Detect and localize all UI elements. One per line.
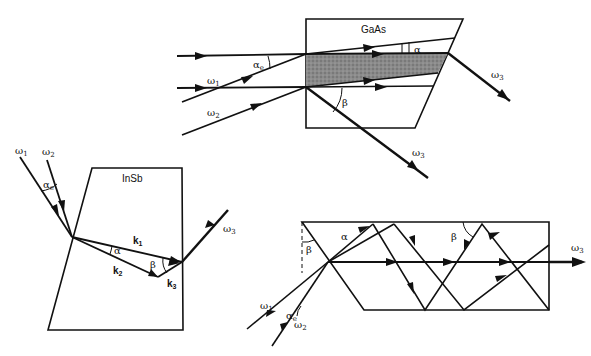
insb-omega3-label: ω3 [223, 224, 236, 236]
waveguide-omega2-label: ω2 [294, 320, 307, 332]
k1-label: k1 [133, 236, 142, 247]
insb-material-label: InSb [122, 174, 143, 184]
k2-label: k2 [113, 266, 122, 277]
insb-omega1-label: ω1 [15, 146, 28, 158]
insb-beta-label: β [150, 260, 156, 270]
figure: GaAs αe α ω1 ω2 β ω3 ω3 InSb ω1 ω2 αe α … [0, 0, 591, 356]
gaas-external-angle-label: αe [253, 60, 264, 72]
gaas-interaction-region [306, 53, 448, 87]
waveguide-facet-beta-label: β [306, 245, 312, 255]
gaas-material-label: GaAs [361, 25, 386, 35]
waveguide-omega3-label: ω3 [571, 243, 584, 255]
insb-alpha-label: α [114, 246, 121, 256]
waveguide-omega1-label: ω1 [260, 301, 273, 313]
insb-omega2-label: ω2 [42, 147, 55, 159]
gaas-omega3-bottom-label: ω3 [412, 148, 425, 160]
insb-external-angle-label: αe [43, 180, 54, 192]
waveguide-reflection-beta-label: β [451, 232, 457, 242]
gaas-internal-angle-label: α [414, 45, 421, 55]
gaas-omega3-top-label: ω3 [491, 70, 504, 82]
gaas-beta-label: β [342, 98, 348, 108]
gaas-omega1-label: ω1 [207, 76, 220, 88]
gaas-omega2-label: ω2 [207, 108, 220, 120]
k3-label: k3 [167, 279, 176, 290]
waveguide-crystal [302, 222, 549, 310]
waveguide-alpha-label: α [341, 232, 348, 242]
